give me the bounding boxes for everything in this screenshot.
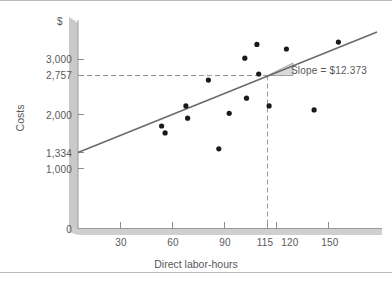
data-point	[312, 107, 317, 112]
data-point	[159, 123, 164, 128]
slope-annotation-label: Slope = $12.373	[291, 65, 367, 76]
data-point	[185, 116, 190, 121]
data-point	[256, 71, 261, 76]
x-tick-label-30: 30	[115, 237, 127, 248]
data-point	[267, 103, 272, 108]
data-point	[242, 56, 247, 61]
data-point	[183, 103, 188, 108]
y-tick-label-2000: 2,000	[30, 110, 72, 121]
x-tick-label-90: 90	[219, 237, 231, 248]
x-tick-label-150: 150	[321, 237, 338, 248]
x-tick-label-115: 115	[257, 237, 274, 248]
x-tick-marks	[121, 222, 329, 229]
data-points	[159, 40, 341, 152]
y-axis-title: Costs	[14, 105, 26, 132]
y-tick-label-1000: 1,000	[30, 164, 72, 175]
data-point	[216, 146, 221, 151]
data-point	[163, 130, 168, 135]
y-tick-label-2757: 2,757	[30, 70, 72, 81]
x-axis-shadow	[69, 228, 382, 235]
data-point	[254, 42, 259, 47]
chart-figure: $ 3,000 2,757 2,000 1,334 1,000 0 30 60 …	[0, 0, 392, 283]
y-tick-label-1334: 1,334	[30, 148, 72, 159]
slope-triangle	[268, 63, 294, 76]
y-tick-label-0: 0	[30, 224, 72, 235]
data-point	[284, 46, 289, 51]
data-point	[227, 111, 232, 116]
y-axis-shadow	[69, 17, 78, 232]
y-axis-unit-symbol: $	[57, 16, 63, 27]
data-point	[336, 40, 341, 45]
y-tick-label-3000: 3,000	[30, 54, 72, 65]
regression-line	[78, 32, 377, 153]
x-axis-title: Direct labor-hours	[154, 258, 237, 270]
x-tick-label-60: 60	[167, 237, 179, 248]
x-tick-label-120: 120	[281, 237, 298, 248]
data-point	[244, 96, 249, 101]
data-point	[206, 78, 211, 83]
